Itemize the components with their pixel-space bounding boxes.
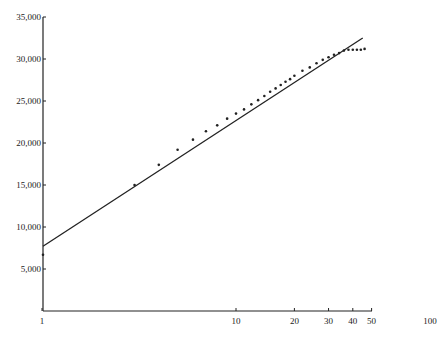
data-point <box>192 138 195 141</box>
data-point <box>289 78 292 81</box>
y-tick-label: 25,000 <box>16 96 41 106</box>
x-tick-label: 20 <box>290 316 300 326</box>
x-tick-label: 40 <box>348 316 358 326</box>
data-point <box>356 48 359 51</box>
x-tick-label: 30 <box>324 316 334 326</box>
data-point <box>347 48 350 51</box>
y-tick-label: 5,000 <box>21 264 42 274</box>
data-points <box>42 48 366 256</box>
data-point <box>250 103 253 106</box>
x-tick-label: 10 <box>232 316 242 326</box>
data-point <box>284 80 287 83</box>
data-point <box>363 48 366 51</box>
data-point <box>157 164 160 167</box>
chart: 5,00010,00015,00020,00025,00030,00035,00… <box>0 0 438 338</box>
data-point <box>315 62 318 65</box>
y-tick-label: 30,000 <box>16 54 41 64</box>
data-point <box>42 253 45 256</box>
y-tick-label: 10,000 <box>16 222 41 232</box>
data-point <box>263 95 266 98</box>
data-point <box>133 184 136 187</box>
trend-line <box>43 38 363 246</box>
data-point <box>279 84 282 87</box>
data-point <box>216 124 219 127</box>
data-point <box>327 56 330 59</box>
data-point <box>176 148 179 151</box>
data-point <box>301 69 304 72</box>
data-point <box>343 49 346 52</box>
data-point <box>269 90 272 93</box>
data-point <box>293 75 296 78</box>
data-point <box>321 59 324 62</box>
data-point <box>257 99 260 102</box>
y-tick-label: 15,000 <box>16 180 41 190</box>
data-point <box>243 108 246 111</box>
y-tick-label: 20,000 <box>16 138 41 148</box>
data-point <box>308 66 311 69</box>
x-tick-label: 100 <box>423 316 437 326</box>
data-point <box>333 54 336 57</box>
x-tick-label: 50 <box>367 316 377 326</box>
data-point <box>274 87 277 90</box>
y-ticks: 5,00010,00015,00020,00025,00030,00035,00… <box>16 12 46 274</box>
x-tick-label: 1 <box>40 316 45 326</box>
data-point <box>226 117 229 120</box>
data-point <box>351 48 354 51</box>
data-point <box>338 52 341 55</box>
data-point <box>205 130 208 133</box>
y-tick-label: 35,000 <box>16 12 41 22</box>
data-point <box>235 112 238 115</box>
data-point <box>360 48 363 51</box>
trend-line-segment <box>43 38 363 246</box>
